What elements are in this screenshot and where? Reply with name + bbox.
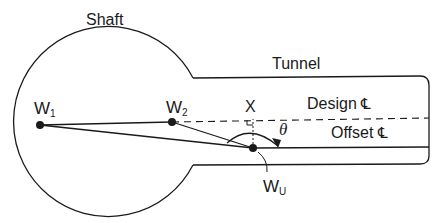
- tunnel-label: Tunnel: [272, 56, 320, 72]
- design-centerline: [172, 118, 429, 122]
- offset-centerline-label: Offset ℄: [331, 125, 388, 141]
- wu-label: WU: [263, 178, 286, 195]
- line-w1-wu: [40, 125, 253, 148]
- w1-label: W1: [34, 100, 56, 117]
- x-label: X: [245, 99, 256, 115]
- offset-text: Offset: [331, 124, 373, 141]
- w1-base: W: [34, 99, 50, 118]
- theta-label: θ: [279, 121, 287, 138]
- shaft-label: Shaft: [86, 12, 123, 28]
- w2-base: W: [166, 98, 182, 117]
- point-w2: [168, 118, 176, 126]
- tunnel-outline: [193, 76, 429, 165]
- w2-sub: 2: [182, 107, 188, 118]
- line-w1-w2: [40, 122, 172, 125]
- offset-centerline: [253, 147, 429, 148]
- w2-label: W2: [166, 99, 188, 116]
- wu-sub: U: [279, 186, 286, 197]
- design-centerline-symbol: ℄: [361, 95, 371, 112]
- offset-centerline-symbol: ℄: [378, 124, 388, 141]
- wu-base: W: [263, 177, 279, 196]
- diagram-graphics: [0, 0, 437, 223]
- wu-leader-line: [258, 152, 267, 172]
- w1-sub: 1: [50, 108, 56, 119]
- design-text: Design: [307, 95, 357, 112]
- design-centerline-label: Design ℄: [307, 96, 371, 112]
- shaft-tunnel-diagram: Shaft Tunnel W1 W2 WU X θ Design ℄ Offse…: [0, 0, 437, 223]
- point-w1: [36, 121, 44, 129]
- point-wu: [249, 144, 257, 152]
